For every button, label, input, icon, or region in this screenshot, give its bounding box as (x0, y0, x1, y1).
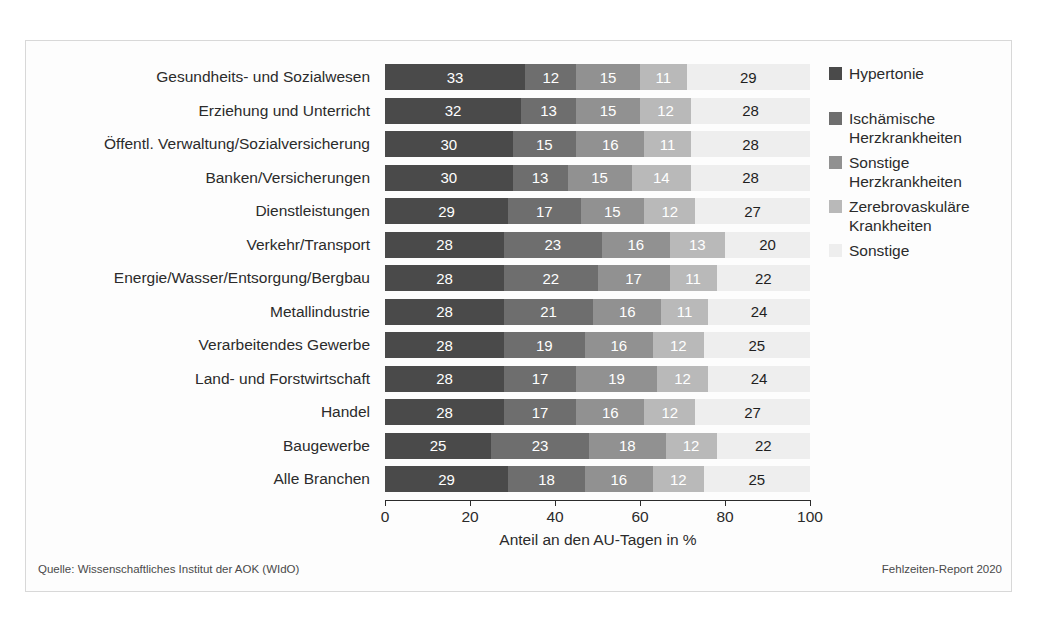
bar-segment: 12 (653, 466, 704, 492)
bar-segment: 33 (385, 64, 525, 90)
bar-value-label: 12 (661, 204, 678, 219)
bar-segment: 28 (385, 399, 504, 425)
bar-segment: 13 (521, 98, 576, 124)
legend-label-line: Hypertonie (849, 64, 924, 83)
bar-row: 2917151227 (385, 198, 810, 232)
bar-segment: 12 (657, 366, 708, 392)
bar-row: 2822171122 (385, 265, 810, 299)
legend-label-line: Ischämische (849, 109, 962, 128)
stacked-bar: 2917151227 (385, 198, 810, 224)
bar-value-label: 28 (436, 237, 453, 252)
x-axis-tick-label: 80 (716, 508, 733, 526)
bar-value-label: 17 (532, 371, 549, 386)
bar-value-label: 24 (751, 371, 768, 386)
bar-value-label: 16 (627, 237, 644, 252)
stacked-bar: 3015161128 (385, 131, 810, 157)
bar-value-label: 12 (657, 103, 674, 118)
bar-row: 2817191224 (385, 366, 810, 400)
bar-row: 3312151129 (385, 64, 810, 98)
bar-value-label: 29 (740, 70, 757, 85)
bar-segment: 18 (508, 466, 585, 492)
category-label: Energie/Wasser/Entsorgung/Bergbau (30, 265, 378, 299)
bar-value-label: 23 (532, 438, 549, 453)
bar-row: 2523181222 (385, 433, 810, 467)
legend-item[interactable]: IschämischeHerzkrankheiten (829, 109, 1004, 147)
legend-item[interactable]: ZerebrovaskuläreKrankheiten (829, 197, 1004, 235)
stacked-bar: 2817191224 (385, 366, 810, 392)
bar-segment: 16 (585, 466, 653, 492)
bar-value-label: 19 (536, 338, 553, 353)
bar-segment: 25 (704, 332, 810, 358)
bar-value-label: 11 (685, 271, 701, 286)
category-label: Dienstleistungen (30, 198, 378, 232)
bar-value-label: 16 (610, 472, 627, 487)
stacked-bar: 3213151228 (385, 98, 810, 124)
bar-value-label: 12 (542, 70, 559, 85)
bar-segment: 11 (661, 299, 708, 325)
bar-segment: 17 (508, 198, 580, 224)
bar-value-label: 18 (619, 438, 636, 453)
bar-segment: 12 (644, 198, 695, 224)
chart-figure: Gesundheits- und SozialwesenErziehung un… (0, 0, 1040, 627)
bar-value-label: 29 (438, 204, 455, 219)
bar-value-label: 15 (600, 70, 617, 85)
bar-segment: 25 (704, 466, 810, 492)
legend-item[interactable]: SonstigeHerzkrankheiten (829, 153, 1004, 191)
bar-segment: 22 (717, 433, 811, 459)
bar-value-label: 22 (755, 438, 772, 453)
legend-swatch-icon (829, 67, 842, 80)
bar-value-label: 28 (436, 271, 453, 286)
stacked-bar: 3312151129 (385, 64, 810, 90)
bar-value-label: 11 (656, 70, 672, 85)
bar-segment: 12 (666, 433, 717, 459)
report-note: Fehlzeiten-Report 2020 (882, 563, 1002, 575)
stacked-bar: 2821161124 (385, 299, 810, 325)
x-axis-title: Anteil an den AU-Tagen in % (385, 531, 811, 549)
category-label: Gesundheits- und Sozialwesen (30, 64, 378, 98)
legend-item[interactable]: Sonstige (829, 241, 1004, 260)
bar-row: 2821161124 (385, 299, 810, 333)
bar-value-label: 25 (430, 438, 447, 453)
bar-value-label: 15 (591, 170, 608, 185)
bar-segment: 17 (504, 366, 576, 392)
bar-value-label: 28 (742, 137, 759, 152)
legend-label: Sonstige (849, 241, 909, 260)
bar-segment: 28 (385, 366, 504, 392)
bar-segment: 23 (504, 232, 602, 258)
bar-segment: 16 (593, 299, 661, 325)
bar-segment: 27 (695, 198, 810, 224)
bar-segment: 16 (576, 131, 644, 157)
bar-segment: 16 (585, 332, 653, 358)
bar-value-label: 12 (670, 338, 687, 353)
category-label: Baugewerbe (30, 433, 378, 467)
bar-segment: 15 (576, 64, 640, 90)
bar-segment: 24 (708, 366, 810, 392)
x-axis-tick-label: 0 (381, 508, 390, 526)
bar-value-label: 12 (661, 405, 678, 420)
bar-row: 2918161225 (385, 466, 810, 500)
bar-value-label: 25 (749, 472, 766, 487)
x-axis-tick-label: 100 (797, 508, 823, 526)
bar-segment: 28 (691, 165, 810, 191)
bar-row: 2817161227 (385, 399, 810, 433)
stacked-bar: 2918161225 (385, 466, 810, 492)
bar-segment: 11 (644, 131, 691, 157)
bar-value-label: 22 (542, 271, 559, 286)
bar-segment: 15 (568, 165, 632, 191)
bar-value-label: 16 (602, 137, 619, 152)
bar-segment: 13 (670, 232, 725, 258)
bar-segment: 28 (385, 232, 504, 258)
bar-value-label: 19 (608, 371, 625, 386)
bar-value-label: 11 (677, 304, 693, 319)
legend-item[interactable]: Hypertonie (829, 64, 1004, 83)
bar-segment: 29 (687, 64, 810, 90)
bar-value-label: 13 (532, 170, 549, 185)
bar-segment: 28 (691, 131, 810, 157)
bar-value-label: 17 (625, 271, 642, 286)
bar-segment: 28 (385, 265, 504, 291)
bar-row: 3213151228 (385, 98, 810, 132)
category-label: Alle Branchen (30, 466, 378, 500)
x-axis-tick (810, 500, 811, 506)
bar-value-label: 23 (545, 237, 562, 252)
bar-value-label: 15 (604, 204, 621, 219)
